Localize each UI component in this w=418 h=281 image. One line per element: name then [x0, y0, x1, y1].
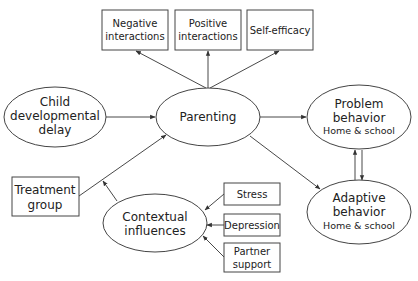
node-parenting: Parenting — [156, 88, 260, 146]
node-depression: Depression — [224, 214, 280, 236]
node-adaptive-behavior: Adaptive behavior Home & school — [307, 180, 411, 244]
svg-text:Negative: Negative — [113, 18, 158, 29]
svg-text:group: group — [28, 198, 63, 212]
svg-text:Contextual: Contextual — [122, 210, 187, 224]
node-problem-behavior: Problem behavior Home & school — [307, 85, 411, 149]
svg-text:interactions: interactions — [178, 31, 237, 42]
node-treatment-group: Treatment group — [12, 177, 79, 216]
node-self-efficacy: Self-efficacy — [247, 10, 313, 50]
svg-text:developmental: developmental — [10, 109, 100, 123]
edge-partner-contextual — [203, 236, 224, 257]
node-partner-support: Partner support — [224, 243, 280, 272]
svg-text:Partner: Partner — [234, 246, 271, 257]
svg-text:Home & school: Home & school — [323, 125, 395, 136]
svg-text:Depression: Depression — [224, 220, 280, 231]
node-child-developmental-delay: Child developmental delay — [4, 87, 106, 147]
svg-text:Self-efficacy: Self-efficacy — [250, 25, 311, 36]
svg-text:Adaptive: Adaptive — [332, 191, 385, 205]
svg-text:Stress: Stress — [237, 189, 268, 200]
svg-text:Parenting: Parenting — [180, 110, 237, 124]
svg-text:Child: Child — [40, 95, 70, 109]
svg-text:Problem: Problem — [334, 97, 383, 111]
node-negative-interactions: Negative interactions — [102, 10, 168, 50]
svg-text:behavior: behavior — [333, 205, 386, 219]
svg-text:interactions: interactions — [105, 31, 164, 42]
edge-stress-contextual — [205, 194, 224, 210]
edge-parenting-adaptive — [250, 136, 320, 189]
svg-text:Treatment: Treatment — [13, 183, 75, 197]
svg-text:Positive: Positive — [189, 18, 228, 29]
edge-parenting-selfefficacy — [210, 51, 279, 88]
svg-text:Home & school: Home & school — [323, 220, 395, 231]
svg-text:support: support — [233, 259, 271, 270]
svg-text:delay: delay — [39, 123, 72, 137]
svg-text:influences: influences — [124, 224, 185, 238]
diagram-canvas: Negative interactions Positive interacti… — [0, 0, 418, 281]
node-positive-interactions: Positive interactions — [175, 10, 241, 50]
edge-parenting-negative — [136, 51, 206, 88]
edge-treatment-parenting — [79, 135, 166, 196]
edge-contextual-path — [103, 181, 117, 201]
node-contextual-influences: Contextual influences — [103, 194, 207, 252]
svg-text:behavior: behavior — [333, 111, 386, 125]
node-stress: Stress — [224, 183, 280, 205]
